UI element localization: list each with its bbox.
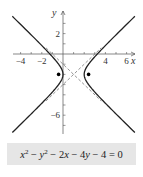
eq-minus-1: −: [28, 149, 39, 160]
right-branch: [84, 16, 135, 132]
eq-term-2x: − 2: [48, 149, 64, 160]
hyperbola-plot: −4−2462−6xy: [0, 0, 143, 140]
tick-labels: −4−2462−6xy: [16, 7, 136, 120]
x-tick-label: −2: [37, 56, 47, 66]
eq-rhs: − 4 = 0: [90, 149, 123, 160]
x-tick-label: −4: [16, 56, 26, 66]
equation-caption: x2 − y2 − 2x − 4y − 4 = 0: [7, 143, 136, 165]
foci-points: [57, 73, 91, 77]
hyperbola-branches: [12, 16, 135, 132]
equation-text: x2 − y2 − 2x − 4y − 4 = 0: [20, 149, 123, 160]
focus-point: [57, 73, 61, 77]
y-tick-label: 2: [56, 29, 61, 39]
x-tick-label: 6: [124, 56, 129, 66]
x-axis-label: x: [130, 55, 136, 66]
y-axis-label: y: [51, 7, 57, 18]
y-tick-label: −6: [50, 110, 60, 120]
x-tick-label: 4: [103, 56, 108, 66]
eq-term-4y: − 4: [69, 149, 85, 160]
axes: [13, 11, 135, 134]
asymptote-lines: [46, 48, 101, 101]
focus-point: [87, 73, 91, 77]
